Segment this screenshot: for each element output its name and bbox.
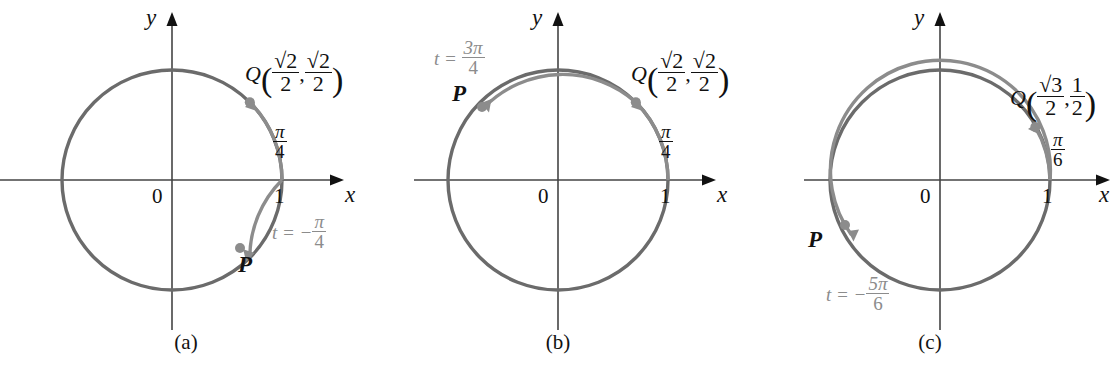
- arc-to-p-arrowhead: [848, 230, 859, 242]
- panel-a: y x 0 1 Q(√22,√22) π4 t = −π4 P (a): [0, 0, 372, 385]
- panel-b-caption: (b): [372, 330, 744, 355]
- x-axis-label: x: [345, 183, 355, 206]
- x-axis-label: x: [1099, 183, 1109, 206]
- q-coord-x: √32: [1037, 74, 1064, 120]
- panel-c: y x 0 1 Q(√32,12) π6 t = −5π6 P (c): [744, 0, 1116, 385]
- x-axis-arrowhead: [330, 175, 344, 186]
- point-p-dot: [840, 220, 850, 230]
- q-open-paren: (: [647, 61, 658, 98]
- point-q-dot: [631, 97, 641, 107]
- origin-label: 0: [920, 186, 931, 207]
- origin-label: 0: [152, 186, 163, 207]
- panel-c-caption: (c): [744, 330, 1116, 355]
- arc-to-p: [485, 74, 636, 106]
- point-q-label: Q(√22,√22): [631, 50, 729, 96]
- q-close-paren: ): [1085, 85, 1096, 122]
- q-name: Q: [631, 61, 647, 86]
- point-p-label: P: [452, 82, 466, 105]
- point-p-label: P: [238, 253, 252, 276]
- point-q-dot: [1030, 122, 1040, 132]
- q-coord-y: √22: [691, 50, 718, 96]
- y-axis-label: y: [146, 6, 156, 29]
- t-value-label: t = −5π6: [826, 274, 889, 314]
- x-axis-label: x: [717, 183, 727, 206]
- q-coord-x: √22: [658, 50, 685, 96]
- x-axis-arrowhead: [702, 175, 716, 186]
- q-coord-y: 12: [1070, 74, 1085, 120]
- t-value-label: t = 3π4: [434, 38, 485, 78]
- q-coord-y: √22: [305, 50, 332, 96]
- tick-label-one: 1: [1042, 186, 1053, 207]
- point-q-label: Q(√32,12): [1010, 74, 1096, 120]
- point-p-dot: [477, 102, 487, 112]
- unit-circle-figure: y x 0 1 Q(√22,√22) π4 t = −π4 P (a): [0, 0, 1116, 385]
- tick-label-one: 1: [660, 186, 671, 207]
- y-axis-label: y: [532, 6, 542, 29]
- y-axis-arrowhead: [167, 12, 178, 26]
- panel-b: y x 0 1 Q(√22,√22) π4 t = 3π4 P (b): [372, 0, 744, 385]
- arc-label-q: π4: [659, 122, 673, 162]
- tick-label-one: 1: [274, 186, 285, 207]
- panel-a-caption: (a): [0, 330, 372, 355]
- y-axis-arrowhead: [935, 12, 946, 26]
- q-name: Q: [1010, 85, 1026, 110]
- q-coord-x: √22: [272, 50, 299, 96]
- q-close-paren: ): [718, 61, 729, 98]
- point-p-label: P: [808, 228, 822, 251]
- arc-label-q: π4: [273, 122, 287, 162]
- q-close-paren: ): [332, 61, 343, 98]
- arc-label-q: π6: [1051, 130, 1065, 170]
- y-axis-label: y: [914, 6, 924, 29]
- t-value-label: t = −π4: [272, 212, 326, 252]
- origin-label: 0: [538, 186, 549, 207]
- point-q-label: Q(√22,√22): [245, 50, 343, 96]
- q-open-paren: (: [1026, 85, 1037, 122]
- q-open-paren: (: [261, 61, 272, 98]
- y-axis-arrowhead: [553, 12, 564, 26]
- q-name: Q: [245, 61, 261, 86]
- point-q-dot: [245, 97, 255, 107]
